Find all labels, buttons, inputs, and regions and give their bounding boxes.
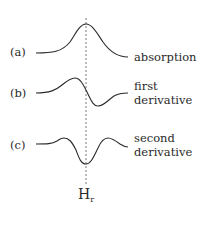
absorption-curve	[36, 24, 128, 57]
second-derivative-curve	[36, 138, 128, 164]
curve-tag-a: (a)	[10, 46, 26, 59]
resonance-field-symbol: H	[78, 186, 90, 202]
resonance-field-label: Hr	[78, 186, 94, 204]
curve-label-second-derivative: derivative	[134, 146, 192, 159]
first-derivative-curve	[36, 78, 128, 106]
resonance-field-subscript: r	[90, 195, 94, 204]
curve-label-absorption: absorption	[134, 51, 197, 64]
curve-tag-b: (b)	[10, 87, 26, 100]
curve-label-second: second	[134, 132, 175, 145]
curve-label-first-derivative: derivative	[134, 94, 192, 107]
curve-tag-c: (c)	[10, 139, 25, 152]
curve-label-first: first	[134, 80, 158, 93]
